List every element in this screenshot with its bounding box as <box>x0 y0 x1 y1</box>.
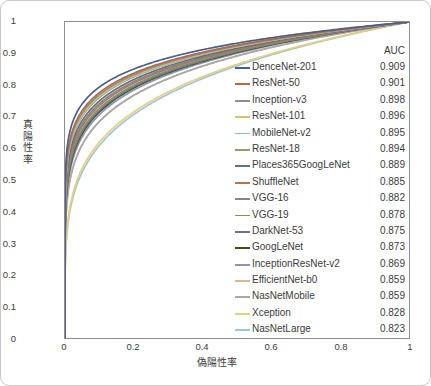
legend-color-swatch <box>235 296 250 298</box>
x-tick-label: 0.2 <box>113 342 153 352</box>
roc-figure: 1 0.9 0.8 0.7 0.6 0.5 0.4 0.3 0.2 0.1 0 … <box>0 0 431 386</box>
legend-series-name: VGG-16 <box>252 192 289 203</box>
y-tick-label: 0.4 <box>0 207 16 217</box>
y-tick-label: 0.1 <box>0 302 16 312</box>
legend-color-swatch <box>235 264 250 266</box>
y-tick-label: 0.9 <box>0 48 16 58</box>
y-tick-label: 0.6 <box>0 143 16 153</box>
legend-series-name: EfficientNet-b0 <box>252 274 317 285</box>
legend-auc-value: 0.859 <box>365 290 405 301</box>
y-tick-label: 0.5 <box>0 175 16 185</box>
legend: AUC DenceNet-2010.909ResNet-500.901Incep… <box>235 45 405 339</box>
legend-color-swatch <box>235 100 250 102</box>
legend-item: ResNet-1010.896 <box>235 109 405 125</box>
legend-auc-value: 0.882 <box>365 192 405 203</box>
legend-item: EfficientNet-b00.859 <box>235 273 405 289</box>
legend-color-swatch <box>235 182 250 184</box>
x-tick-label: 1 <box>390 342 430 352</box>
legend-series-name: InceptionResNet-v2 <box>252 258 340 269</box>
legend-color-swatch <box>235 198 250 200</box>
legend-color-swatch <box>235 329 250 331</box>
legend-color-swatch <box>235 247 250 249</box>
legend-auc-value: 0.885 <box>365 176 405 187</box>
y-axis-label-char: 率 <box>21 154 34 166</box>
legend-color-swatch <box>235 67 250 69</box>
legend-series-name: GoogLeNet <box>252 241 303 252</box>
legend-series-name: Inception-v3 <box>252 94 306 105</box>
y-axis-label: 真 陽 性 率 <box>21 119 34 165</box>
legend-item: Xception0.828 <box>235 306 405 322</box>
legend-item: NasNetMobile0.859 <box>235 289 405 305</box>
legend-color-swatch <box>235 231 250 233</box>
legend-auc-value: 0.875 <box>365 225 405 236</box>
legend-auc-value: 0.896 <box>365 110 405 121</box>
legend-auc-header: AUC <box>365 45 405 56</box>
legend-auc-value: 0.859 <box>365 274 405 285</box>
legend-item: DarkNet-530.875 <box>235 224 405 240</box>
legend-series-name: VGG-19 <box>252 209 289 220</box>
legend-color-swatch <box>235 149 250 151</box>
legend-series-name: ResNet-18 <box>252 143 300 154</box>
legend-series-name: DarkNet-53 <box>252 225 303 236</box>
x-tick-label: 0.6 <box>251 342 291 352</box>
y-axis-label-char: 性 <box>21 142 34 154</box>
x-tick-label: 0.4 <box>182 342 222 352</box>
legend-header: AUC <box>235 45 405 60</box>
y-tick-label: 0.2 <box>0 270 16 280</box>
y-axis-label-char: 陽 <box>21 131 34 143</box>
legend-item: ShuffleNet0.885 <box>235 175 405 191</box>
legend-auc-value: 0.889 <box>365 159 405 170</box>
legend-series-name: Places365GoogLeNet <box>252 159 350 170</box>
legend-series-name: NasNetLarge <box>252 323 311 334</box>
y-axis-label-char: 真 <box>21 119 34 131</box>
legend-auc-value: 0.873 <box>365 241 405 252</box>
legend-color-swatch <box>235 116 250 118</box>
y-tick-label: 0.7 <box>0 111 16 121</box>
legend-series-name: Xception <box>252 307 291 318</box>
legend-auc-value: 0.898 <box>365 94 405 105</box>
legend-auc-value: 0.895 <box>365 127 405 138</box>
legend-color-swatch <box>235 215 250 217</box>
legend-auc-value: 0.901 <box>365 77 405 88</box>
legend-auc-value: 0.869 <box>365 258 405 269</box>
y-tick-label: 0.3 <box>0 239 16 249</box>
legend-series-name: NasNetMobile <box>252 290 315 301</box>
legend-series-name: MobileNet-v2 <box>252 127 311 138</box>
legend-item: NasNetLarge0.823 <box>235 322 405 338</box>
legend-auc-value: 0.894 <box>365 143 405 154</box>
legend-item: Inception-v30.898 <box>235 93 405 109</box>
legend-series-name: ResNet-50 <box>252 77 300 88</box>
legend-auc-value: 0.878 <box>365 209 405 220</box>
legend-color-swatch <box>235 165 250 167</box>
legend-color-swatch <box>235 83 250 85</box>
x-tick-label: 0.8 <box>321 342 361 352</box>
legend-auc-value: 0.828 <box>365 307 405 318</box>
legend-item: InceptionResNet-v20.869 <box>235 257 405 273</box>
legend-item: DenceNet-2010.909 <box>235 60 405 76</box>
legend-color-swatch <box>235 280 250 282</box>
legend-item: ResNet-180.894 <box>235 142 405 158</box>
legend-item: GoogLeNet0.873 <box>235 240 405 256</box>
legend-item: Places365GoogLeNet0.889 <box>235 158 405 174</box>
x-tick-label: 0 <box>44 342 84 352</box>
legend-auc-value: 0.823 <box>365 323 405 334</box>
x-axis-label: 偽陽性率 <box>1 354 431 369</box>
legend-item: VGG-160.882 <box>235 191 405 207</box>
legend-item: VGG-190.878 <box>235 208 405 224</box>
legend-auc-value: 0.909 <box>365 61 405 72</box>
legend-series-name: ShuffleNet <box>252 176 299 187</box>
legend-series-name: DenceNet-201 <box>252 61 316 72</box>
y-tick-label: 0 <box>0 334 16 344</box>
legend-rows: DenceNet-2010.909ResNet-500.901Inception… <box>235 60 405 339</box>
legend-color-swatch <box>235 313 250 315</box>
legend-item: MobileNet-v20.895 <box>235 126 405 142</box>
legend-item: ResNet-500.901 <box>235 76 405 92</box>
y-tick-label: 0.8 <box>0 80 16 90</box>
y-tick-label: 1 <box>0 16 16 26</box>
legend-color-swatch <box>235 133 250 135</box>
legend-series-name: ResNet-101 <box>252 110 305 121</box>
